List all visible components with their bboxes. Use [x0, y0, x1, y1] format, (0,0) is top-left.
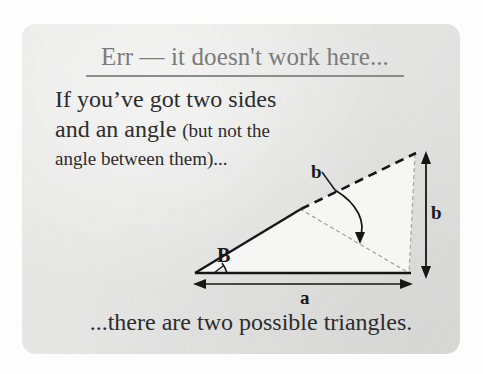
label-side-a: a	[300, 288, 310, 307]
triangle-svg	[22, 24, 460, 354]
closing-line: ...there are two possible triangles.	[60, 309, 442, 336]
label-side-b-arc: b	[311, 162, 322, 181]
b-label-leader-line	[322, 172, 335, 190]
label-angle-b: B	[217, 246, 230, 265]
textbook-card: Err — it doesn't work here... If you’ve …	[22, 24, 460, 354]
side-a-arrowhead-right	[400, 279, 413, 289]
screenshot-root: Err — it doesn't work here... If you’ve …	[0, 0, 483, 374]
side-a-arrowhead-left	[193, 279, 206, 289]
side-b-arrowhead-top	[421, 151, 431, 164]
triangle-figure: b b a B	[22, 24, 460, 354]
label-side-b-right: b	[431, 203, 442, 222]
side-b-arrowhead-bottom	[421, 266, 431, 279]
